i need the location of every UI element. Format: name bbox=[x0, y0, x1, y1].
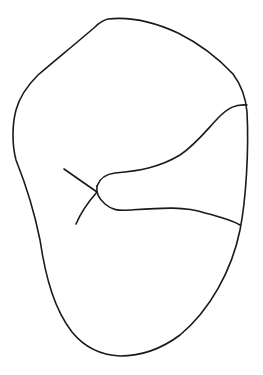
lower-groove bbox=[97, 186, 240, 225]
outer-outline bbox=[13, 18, 248, 356]
upper-left-fissure bbox=[64, 169, 97, 192]
lower-left-fissure bbox=[76, 192, 97, 224]
upper-groove bbox=[97, 105, 247, 186]
drawing-canvas bbox=[0, 0, 263, 375]
outline-drawing bbox=[0, 0, 263, 375]
